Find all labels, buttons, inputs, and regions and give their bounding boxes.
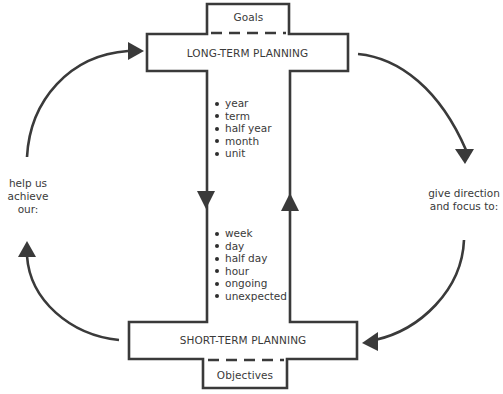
goals-label: Goals	[207, 11, 290, 23]
list-item: month	[214, 135, 271, 148]
planning-frame	[129, 4, 357, 388]
right-curved-arrow-top	[358, 54, 474, 164]
list-item: day	[214, 240, 287, 253]
right-label-line: and focus to:	[425, 200, 503, 213]
list-item: half year	[214, 122, 271, 135]
right-label-line: give direction	[425, 187, 503, 200]
right-cycle-label: give direction and focus to:	[425, 187, 503, 213]
list-item: ongoing	[214, 277, 287, 290]
list-item: term	[214, 110, 271, 123]
down-arrow	[197, 191, 215, 209]
left-label-line: help us	[0, 177, 56, 190]
left-label-line: our:	[0, 203, 56, 216]
long-term-items: year term half year month unit	[214, 97, 271, 160]
list-item: year	[214, 97, 271, 110]
long-term-planning-title: LONG-TERM PLANNING	[147, 47, 348, 59]
list-item: unit	[214, 147, 271, 160]
left-cycle-label: help us achieve our:	[0, 177, 56, 216]
list-item: unexpected	[214, 290, 287, 303]
up-arrow	[281, 193, 299, 211]
list-item: week	[214, 227, 287, 240]
right-curved-arrow-bottom	[362, 240, 464, 351]
left-curved-arrow-top	[27, 42, 144, 157]
objectives-label: Objectives	[203, 369, 287, 381]
short-term-planning-title: SHORT-TERM PLANNING	[129, 334, 357, 346]
left-curved-arrow-bottom	[18, 241, 119, 340]
short-term-items: week day half day hour ongoing unexpecte…	[214, 227, 287, 303]
list-item: hour	[214, 265, 287, 278]
list-item: half day	[214, 252, 287, 265]
left-label-line: achieve	[0, 190, 56, 203]
